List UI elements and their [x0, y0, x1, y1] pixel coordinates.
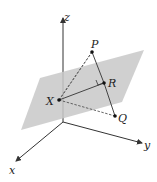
y-axis-label: y [143, 139, 151, 152]
point-X [57, 98, 61, 102]
label-X: X [45, 95, 55, 108]
geometry-figure: z y x P R X Q [0, 0, 157, 182]
label-Q: Q [118, 112, 127, 125]
x-axis-label: x [9, 164, 16, 177]
label-R: R [107, 77, 116, 90]
z-axis-label: z [63, 11, 70, 24]
label-P: P [90, 38, 99, 51]
y-axis [63, 122, 142, 143]
diagram-canvas: z y x P R X Q [0, 0, 157, 182]
point-Q [113, 114, 117, 118]
point-R [102, 81, 106, 85]
